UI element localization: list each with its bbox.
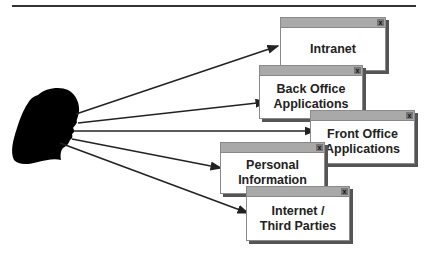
window-titlebar: x (260, 66, 362, 76)
window-titlebar: x (311, 111, 414, 121)
close-icon: x (316, 144, 323, 151)
close-icon: x (377, 19, 384, 26)
window-label: Internet /Third Parties (247, 197, 349, 240)
label-line: Personal (246, 158, 299, 172)
label-line: Internet / (272, 204, 325, 218)
window-titlebar: x (247, 187, 349, 197)
label-line: Third Parties (260, 219, 336, 233)
window-internet: x Internet /Third Parties (246, 186, 350, 241)
window-titlebar: x (221, 143, 324, 153)
window-label: Front OfficeApplications (311, 121, 414, 163)
label-line: Back Office (277, 82, 346, 96)
person-silhouette-icon (12, 88, 79, 164)
close-icon: x (406, 112, 413, 119)
close-icon: x (354, 67, 361, 74)
label-line: Information (238, 173, 307, 187)
window-label: Intranet (281, 28, 385, 70)
window-intranet: x Intranet (280, 17, 386, 71)
label-line: Applications (325, 142, 400, 156)
window-titlebar: x (281, 18, 385, 28)
close-icon: x (341, 188, 348, 195)
label-line: Applications (273, 97, 348, 111)
label-line: Intranet (310, 42, 356, 56)
label-line: Front Office (327, 127, 398, 141)
window-front-office: x Front OfficeApplications (310, 110, 415, 164)
